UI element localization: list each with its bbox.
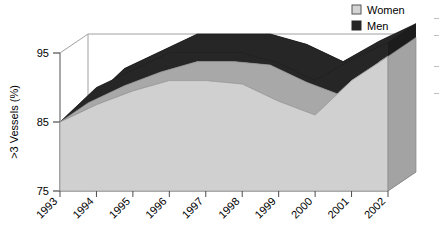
y-tick-label-95: 95 (37, 47, 49, 59)
chart-container: 95 85 75 >3 Vessels (%) 1993199419951996… (0, 0, 441, 244)
x-axis-labels: 1993199419951996199719981999200020012002 (34, 195, 388, 221)
y-tick-label-85: 85 (37, 116, 49, 128)
legend-label-men: Men (367, 20, 388, 32)
page-edge-artifact (432, 0, 441, 244)
x-tick-label: 1999 (252, 195, 278, 221)
x-tick-label: 1996 (143, 195, 169, 221)
x-tick-label: 2002 (362, 195, 388, 221)
y-tick-label-75: 75 (37, 185, 49, 197)
x-tick-label: 2000 (289, 195, 315, 221)
x-tick-label: 1993 (34, 195, 60, 221)
legend: Women Men (352, 4, 405, 32)
area-chart-svg: 95 85 75 >3 Vessels (%) 1993199419951996… (0, 0, 441, 244)
x-tick-label: 1998 (216, 195, 242, 221)
legend-label-women: Women (367, 4, 405, 16)
x-tick-label: 1994 (70, 195, 96, 221)
x-tick-label: 1997 (179, 195, 205, 221)
y-axis-title: >3 Vessels (%) (8, 85, 20, 159)
x-axis-ticks (60, 191, 388, 197)
depth-face-women (388, 37, 416, 191)
legend-swatch-men (352, 21, 361, 30)
legend-swatch-women (352, 5, 361, 14)
x-tick-label: 2001 (325, 195, 351, 221)
y-axis-ticks (53, 53, 60, 191)
series-layer (60, 24, 416, 191)
x-tick-label: 1995 (107, 195, 133, 221)
